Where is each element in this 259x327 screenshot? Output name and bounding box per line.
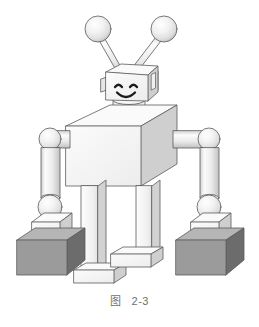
figure-caption-label: 图 <box>110 292 122 308</box>
torso-front-face <box>66 126 141 186</box>
head <box>101 64 158 101</box>
elbow-right <box>198 128 220 150</box>
figure-caption-number: 2-3 <box>132 295 149 307</box>
forearm-left <box>41 148 60 198</box>
figure-container: 图2-3 <box>0 0 259 327</box>
crate-right-large <box>176 228 244 275</box>
arm-right <box>173 128 221 219</box>
robot-illustration <box>0 0 259 327</box>
forearm-right <box>200 148 219 198</box>
ear-right-inset <box>152 73 156 91</box>
crate-left-large <box>17 228 85 275</box>
foot-left-front <box>74 270 114 283</box>
torso <box>66 105 177 186</box>
figure-caption: 图2-3 <box>0 292 259 308</box>
crate-left-large-front <box>17 240 67 275</box>
elbow-left <box>39 128 61 150</box>
foot-right-front <box>111 254 151 267</box>
foot-right <box>111 247 163 267</box>
arm-left <box>38 128 70 219</box>
antenna-right-ball <box>151 16 177 42</box>
antenna-left-ball <box>85 16 111 42</box>
crate-right-large-front <box>176 240 226 275</box>
